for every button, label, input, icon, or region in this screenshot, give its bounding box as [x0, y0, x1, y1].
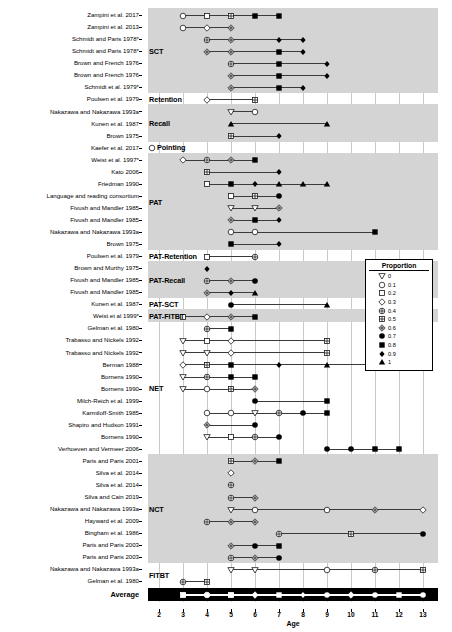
marker-diamond-plus	[378, 324, 385, 331]
marker-diamond-plus	[228, 518, 235, 525]
data-row[interactable]	[148, 564, 438, 576]
marker-diamond-open	[420, 506, 427, 513]
marker-triangle-down-open	[204, 349, 211, 356]
data-row[interactable]	[148, 407, 438, 419]
average-label: Average	[110, 591, 144, 599]
data-row[interactable]	[148, 371, 438, 383]
marker-square-plus	[420, 566, 427, 573]
marker-triangle-up-filled	[324, 120, 331, 127]
marker-diamond-plus	[228, 72, 235, 79]
marker-square-plus	[252, 96, 259, 103]
row-tick	[139, 208, 142, 209]
row-tick	[139, 545, 142, 546]
data-row[interactable]	[148, 70, 438, 82]
data-row[interactable]	[148, 467, 438, 479]
marker-triangle-down-open	[228, 506, 235, 513]
data-row[interactable]	[148, 395, 438, 407]
data-row[interactable]	[148, 479, 438, 491]
marker-diamond-open	[180, 157, 187, 164]
row-tick	[139, 449, 142, 450]
row-connector-line	[183, 316, 255, 317]
marker-circle-filled	[228, 301, 235, 308]
data-row[interactable]	[148, 383, 438, 395]
data-row[interactable]	[148, 238, 438, 250]
row-connector-line	[207, 425, 255, 426]
study-label: Trabasso and Nickels 1992	[65, 349, 144, 357]
data-row[interactable]	[148, 552, 438, 564]
data-row[interactable]	[148, 540, 438, 552]
data-row[interactable]	[148, 516, 438, 528]
data-row[interactable]	[148, 82, 438, 94]
row-tick	[139, 581, 142, 582]
row-tick	[139, 340, 142, 341]
marker-diamond-plus	[252, 494, 259, 501]
marker-square-open	[204, 253, 211, 260]
row-tick	[139, 184, 142, 185]
study-label: Fivush and Mandler 1985	[70, 276, 144, 284]
row-tick	[139, 413, 142, 414]
row-tick	[139, 27, 142, 28]
data-row[interactable]	[148, 226, 438, 238]
marker-square-open	[228, 434, 235, 441]
row-tick	[139, 569, 142, 570]
study-label: Schmidt and Paris 1978*	[72, 47, 144, 55]
row-tick	[139, 148, 142, 149]
legend-entry: 0.9	[369, 349, 429, 358]
marker-diamond-plus	[228, 48, 235, 55]
row-connector-line	[231, 87, 303, 88]
marker-triangle-up-filled	[228, 120, 235, 127]
marker-diamond-filled	[276, 169, 283, 176]
legend-value: 0.7	[388, 333, 396, 339]
marker-circle-filled	[252, 398, 259, 405]
data-row[interactable]	[148, 118, 438, 130]
marker-square-open	[204, 181, 211, 188]
data-row[interactable]	[148, 504, 438, 516]
data-row[interactable]	[148, 214, 438, 226]
data-row[interactable]	[148, 576, 438, 588]
marker-square-filled	[228, 241, 235, 248]
study-label: Nakazawa and Nakazawa 1993a	[50, 565, 144, 573]
data-row[interactable]	[148, 455, 438, 467]
row-tick	[139, 172, 142, 173]
row-tick	[139, 377, 142, 378]
marker-diamond-filled	[276, 36, 283, 43]
data-row[interactable]	[148, 190, 438, 202]
study-label: Berman 1988	[102, 361, 144, 369]
data-row[interactable]	[148, 492, 438, 504]
data-row[interactable]	[148, 431, 438, 443]
data-row[interactable]	[148, 202, 438, 214]
row-tick	[139, 437, 142, 438]
legend-entry: 0.7	[369, 332, 429, 341]
legend-symbol	[377, 281, 386, 289]
data-row[interactable]	[148, 419, 438, 431]
study-label: Kaefer et al. 2017	[91, 144, 144, 152]
marker-diamond-open	[204, 24, 211, 31]
legend-value: 0.4	[388, 308, 396, 314]
data-row[interactable]	[148, 130, 438, 142]
data-row[interactable]	[148, 154, 438, 166]
data-row[interactable]	[148, 46, 438, 58]
marker-square-plus	[348, 530, 355, 537]
row-tick	[139, 232, 142, 233]
marker-diamond-filled	[324, 60, 331, 67]
data-row[interactable]	[148, 528, 438, 540]
data-row[interactable]	[148, 106, 438, 118]
marker-square-filled	[252, 374, 259, 381]
marker-circle-plus	[252, 434, 259, 441]
marker-square-filled	[324, 398, 331, 405]
study-label: Bornens 1990	[101, 373, 144, 381]
data-row[interactable]	[148, 10, 438, 22]
row-tick	[139, 364, 142, 365]
data-row[interactable]	[148, 22, 438, 34]
legend-symbol	[377, 332, 386, 340]
marker-diamond-open	[378, 299, 385, 306]
x-tick-label-3: 3	[181, 611, 185, 618]
row-tick	[139, 304, 142, 305]
row-connector-line	[207, 99, 255, 100]
row-tick	[139, 51, 142, 52]
data-row[interactable]	[148, 58, 438, 70]
data-row[interactable]	[148, 178, 438, 190]
data-row[interactable]	[148, 34, 438, 46]
marker-square-filled	[252, 217, 259, 224]
data-row[interactable]	[148, 166, 438, 178]
